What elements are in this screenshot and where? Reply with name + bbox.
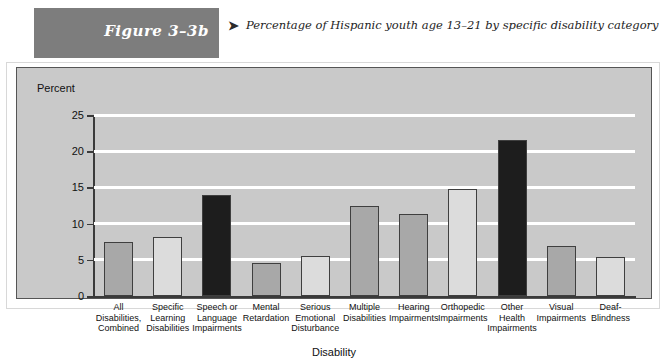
chart-frame: Percent 0510152025 Disability AllDisabil… bbox=[6, 62, 660, 309]
x-axis-category-line: All bbox=[91, 302, 146, 313]
x-axis-category-line: Combined bbox=[91, 323, 146, 334]
x-axis-category-line: Health bbox=[484, 313, 539, 324]
figure-caption: ➤ Percentage of Hispanic youth age 13–21… bbox=[228, 18, 658, 33]
gridline bbox=[94, 150, 635, 153]
x-axis-category-line: Multiple bbox=[337, 302, 392, 313]
x-axis-category-label: MultipleDisabilities bbox=[337, 302, 392, 323]
x-axis-category-line: Learning bbox=[140, 313, 195, 324]
x-axis-category-line: Impairments bbox=[189, 323, 244, 334]
x-axis-line bbox=[93, 296, 636, 298]
x-axis-category-line: Specific bbox=[140, 302, 195, 313]
x-axis-category-line: Orthopedic bbox=[435, 302, 490, 313]
bar bbox=[399, 214, 428, 296]
x-axis-category-line: Mental bbox=[239, 302, 294, 313]
x-axis-category-label: HearingImpairments bbox=[386, 302, 441, 323]
bar bbox=[104, 242, 133, 296]
x-axis-category-line: Other bbox=[484, 302, 539, 313]
x-axis-category-line: Deaf- bbox=[583, 302, 638, 313]
figure-banner-lower bbox=[34, 44, 219, 58]
x-axis-category-line: Impairments bbox=[435, 313, 490, 324]
y-axis-ticks: 0510152025 bbox=[17, 68, 93, 298]
x-axis-category-label: OtherHealthImpairments bbox=[484, 302, 539, 334]
x-axis-category-line: Speech or bbox=[189, 302, 244, 313]
x-axis-category-line: Impairments bbox=[484, 323, 539, 334]
bar bbox=[153, 237, 182, 296]
y-axis-label: 15 bbox=[72, 181, 84, 193]
x-axis-category-line: Serious bbox=[288, 302, 343, 313]
x-axis-category-line: Retardation bbox=[239, 313, 294, 324]
bar bbox=[498, 140, 527, 296]
arrow-icon: ➤ bbox=[228, 18, 239, 33]
x-axis-category-label: Speech orLanguageImpairments bbox=[189, 302, 244, 334]
figure-banner: Figure 3–3b bbox=[34, 8, 219, 46]
x-axis-category-line: Disabilities bbox=[337, 313, 392, 324]
chart-panel: Percent 0510152025 Disability AllDisabil… bbox=[16, 67, 652, 299]
bar bbox=[301, 256, 330, 296]
gridline bbox=[94, 114, 635, 117]
figure-caption-text: Percentage of Hispanic youth age 13–21 b… bbox=[246, 18, 659, 33]
bar bbox=[252, 263, 281, 296]
bar bbox=[547, 246, 576, 296]
x-axis-category-line: Blindness bbox=[583, 313, 638, 324]
bar bbox=[350, 206, 379, 296]
figure-label: Figure 3–3b bbox=[104, 22, 209, 40]
x-axis-category-line: Language bbox=[189, 313, 244, 324]
x-axis-category-label: VisualImpairments bbox=[534, 302, 589, 323]
x-axis-category-line: Disabilities bbox=[140, 323, 195, 334]
x-axis-category-line: Disabilities, bbox=[91, 313, 146, 324]
y-axis-label: 25 bbox=[72, 109, 84, 121]
x-axis-category-label: SpecificLearningDisabilities bbox=[140, 302, 195, 334]
y-axis-label: 10 bbox=[72, 218, 84, 230]
x-axis-category-label: Deaf-Blindness bbox=[583, 302, 638, 323]
x-axis-category-line: Hearing bbox=[386, 302, 441, 313]
y-axis-label: 0 bbox=[78, 290, 84, 302]
bar bbox=[448, 189, 477, 296]
bar bbox=[202, 195, 231, 296]
x-axis-category-line: Disturbance bbox=[288, 323, 343, 334]
x-axis-title: Disability bbox=[17, 346, 651, 358]
x-axis-category-line: Emotional bbox=[288, 313, 343, 324]
plot-area bbox=[94, 115, 635, 296]
y-axis-label: 20 bbox=[72, 145, 84, 157]
x-axis-category-line: Visual bbox=[534, 302, 589, 313]
y-axis-label: 5 bbox=[78, 254, 84, 266]
bar bbox=[596, 257, 625, 296]
x-axis-category-line: Impairments bbox=[534, 313, 589, 324]
x-axis-category-label: AllDisabilities,Combined bbox=[91, 302, 146, 334]
x-axis-category-line: Impairments bbox=[386, 313, 441, 324]
x-axis-category-label: SeriousEmotionalDisturbance bbox=[288, 302, 343, 334]
gridline bbox=[94, 186, 635, 189]
x-axis-category-label: MentalRetardation bbox=[239, 302, 294, 323]
figure-header: Figure 3–3b ➤ Percentage of Hispanic you… bbox=[0, 0, 666, 58]
x-axis-category-label: OrthopedicImpairments bbox=[435, 302, 490, 323]
